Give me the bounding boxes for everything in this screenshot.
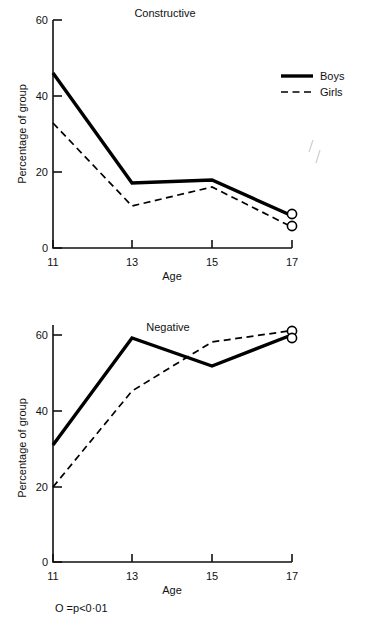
chart-svg-canvas: 60 40 20 0 11 13 15 17 Age Percentage of… <box>0 0 365 622</box>
x-tick-label-15-bottom: 15 <box>206 570 218 582</box>
footnote-significance: O =p<0·01 <box>55 602 108 614</box>
panel-title-constructive: Constructive <box>134 7 195 19</box>
x-axis-title-bottom: Age <box>162 584 182 596</box>
x-axis-ticks-top <box>53 240 292 248</box>
x-tick-label-17-top: 17 <box>286 256 298 268</box>
x-tick-label-15-top: 15 <box>206 256 218 268</box>
significance-marker-boys-constructive <box>287 209 296 218</box>
significance-marker-boys-negative <box>287 333 296 342</box>
chart-legend: Boys Girls <box>281 70 345 98</box>
x-tick-label-11-bottom: 11 <box>47 570 58 582</box>
y-tick-label-0-top: 0 <box>42 242 48 254</box>
series-line-boys-negative <box>53 336 289 445</box>
panel-title-negative: Negative <box>146 321 189 333</box>
chart-panel-negative: 60 40 20 0 11 13 15 17 Age Percentage of… <box>16 321 298 596</box>
significance-marker-girls-constructive <box>287 221 296 230</box>
legend-label-boys: Boys <box>320 70 345 82</box>
x-axis-ticks-bottom <box>53 554 292 562</box>
x-tick-label-11-top: 11 <box>47 256 58 268</box>
y-axis-ticks-bottom <box>53 335 62 562</box>
x-tick-label-13-top: 13 <box>126 256 138 268</box>
axis-lines-bottom <box>53 325 292 562</box>
chart-panel-constructive: 60 40 20 0 11 13 15 17 Age Percentage of… <box>16 7 345 282</box>
x-tick-label-13-bottom: 13 <box>126 570 138 582</box>
y-tick-label-40-bottom: 40 <box>36 405 48 417</box>
y-axis-title-bottom: Percentage of group <box>16 398 28 498</box>
series-line-girls-constructive <box>53 123 288 225</box>
y-tick-label-20-bottom: 20 <box>36 481 48 493</box>
axis-lines-top <box>53 20 292 248</box>
scan-artifact <box>309 140 320 163</box>
y-tick-label-60-top: 60 <box>36 14 48 26</box>
x-axis-title-top: Age <box>162 270 182 282</box>
y-axis-title-top: Percentage of group <box>16 84 28 184</box>
figure-panel-group: 60 40 20 0 11 13 15 17 Age Percentage of… <box>0 0 365 622</box>
y-tick-label-40-top: 40 <box>36 90 48 102</box>
y-axis-ticks-top <box>53 20 62 248</box>
series-line-boys-constructive <box>53 73 288 214</box>
y-tick-label-60-bottom: 60 <box>36 329 48 341</box>
y-tick-label-20-top: 20 <box>36 166 48 178</box>
x-tick-label-17-bottom: 17 <box>286 570 298 582</box>
y-tick-label-0-bottom: 0 <box>42 556 48 568</box>
legend-label-girls: Girls <box>320 86 343 98</box>
series-line-girls-negative <box>53 331 289 487</box>
